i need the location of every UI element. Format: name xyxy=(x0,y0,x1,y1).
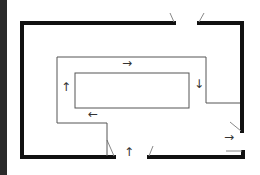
arrow-up-icon: ↑ xyxy=(61,80,71,94)
door-swing-top-left xyxy=(170,13,174,22)
direction-arrows: → ↓ ← ↑ → ↑ xyxy=(61,56,234,159)
arrow-exit-right-icon: → xyxy=(224,130,234,144)
door-swings xyxy=(107,13,242,156)
inner-island xyxy=(75,73,189,108)
wall-top-right xyxy=(199,23,242,131)
floor-plan-diagram: → ↓ ← ↑ → ↑ xyxy=(0,0,260,175)
outer-walls xyxy=(22,23,243,157)
wall-bottom-right xyxy=(149,152,243,157)
wall-top-left xyxy=(22,23,174,157)
arrow-entry-up-icon: ↑ xyxy=(124,145,134,159)
arrow-left-icon: ← xyxy=(88,107,98,121)
circulation-path-outer xyxy=(57,57,240,156)
door-swing-bottom-left xyxy=(107,140,114,156)
arrow-right-icon: → xyxy=(122,56,132,70)
door-swing-bottom-right xyxy=(149,146,153,156)
door-swing-top-right xyxy=(199,13,204,22)
arrow-down-icon: ↓ xyxy=(194,77,204,91)
